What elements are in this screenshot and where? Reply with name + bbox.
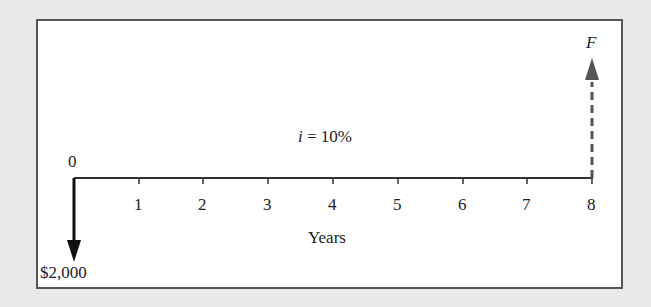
period-6-label: 6 — [458, 196, 467, 213]
down-arrow-icon — [67, 178, 81, 262]
up-arrow-icon — [585, 58, 599, 178]
period-8-label: 8 — [587, 196, 596, 213]
cash-flow-diagram — [0, 0, 651, 307]
outflow-label: $2,000 — [40, 264, 87, 281]
interest-var: i — [298, 127, 303, 146]
period-4-label: 4 — [328, 196, 337, 213]
period-2-label: 2 — [198, 196, 207, 213]
axis-label: Years — [308, 229, 346, 246]
period-5-label: 5 — [393, 196, 402, 213]
period-0-label: 0 — [68, 153, 77, 170]
period-1-label: 1 — [134, 196, 143, 213]
period-7-label: 7 — [522, 196, 531, 213]
period-3-label: 3 — [263, 196, 272, 213]
future-value-label: F — [586, 34, 596, 51]
interest-value: = 10% — [307, 127, 352, 146]
interest-rate-label: i = 10% — [298, 128, 352, 145]
